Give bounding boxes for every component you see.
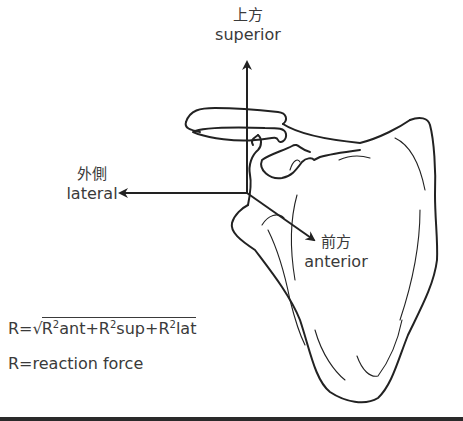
anterior-label-en: anterior [296,252,376,271]
term-sup: sup [116,319,145,338]
axis-arrows [120,62,314,240]
reaction-force-formula: R=√R2ant+R2sup+R2lat [8,317,196,338]
anterior-label-jp: 前方 [296,233,376,252]
superior-label-jp: 上方 [208,6,288,25]
lateral-label-jp: 外側 [62,165,122,184]
plus-operator: + [145,319,158,338]
anterior-label: 前方 anterior [296,233,376,271]
plus-operator: + [85,319,98,338]
term-base: R [158,319,169,338]
superior-label-en: superior [208,25,288,44]
superior-label: 上方 superior [208,6,288,44]
term-base: R [42,319,53,338]
formula-definition: R=reaction force [8,354,143,373]
formula-lhs: R= [8,319,33,338]
lateral-label-en: lateral [62,184,122,203]
radicand: R2ant+R2sup+R2lat [42,317,197,338]
term-lat: lat [176,319,197,338]
term-ant: ant [59,319,85,338]
bottom-divider [0,417,463,421]
term-base: R [99,319,110,338]
lateral-label: 外側 lateral [62,165,122,203]
